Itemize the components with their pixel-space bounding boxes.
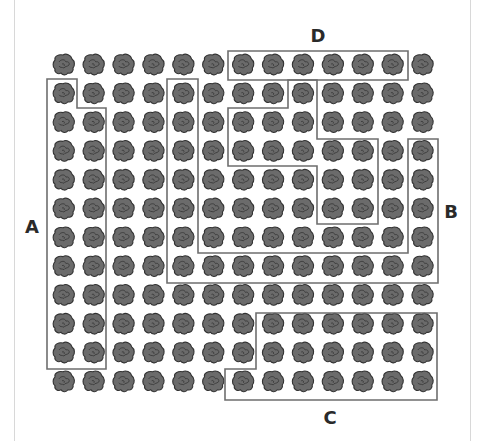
rock-blob-icon	[53, 198, 74, 219]
rock-blob-icon	[143, 342, 164, 363]
rock-blob-icon	[322, 112, 343, 133]
rock-blob-icon	[203, 169, 224, 190]
rock-blob-icon	[203, 112, 224, 133]
rock-blob-icon	[382, 227, 403, 248]
rock-blob-icon	[143, 256, 164, 277]
rock-blob-icon	[173, 371, 194, 392]
rock-blob-icon	[233, 371, 254, 392]
rock-blob-icon	[143, 83, 164, 104]
rock-blob-icon	[262, 285, 283, 306]
rock-blob-icon	[352, 227, 373, 248]
rock-blob-icon	[53, 141, 74, 162]
rock-blob-icon	[262, 227, 283, 248]
rock-blob-icon	[262, 256, 283, 277]
rock-blob-icon	[233, 342, 254, 363]
region-outline-d	[228, 51, 408, 80]
grid-diagram	[0, 0, 478, 441]
region-label-b: B	[444, 203, 458, 221]
rock-blob-icon	[292, 83, 313, 104]
rock-blob-icon	[412, 342, 433, 363]
rock-blob-icon	[262, 54, 283, 75]
rock-blob-icon	[412, 54, 433, 75]
rock-blob-icon	[83, 313, 104, 334]
rock-blob-icon	[382, 141, 403, 162]
rock-blob-icon	[173, 342, 194, 363]
rock-blob-icon	[143, 169, 164, 190]
rock-blob-icon	[322, 198, 343, 219]
rock-blob-icon	[412, 169, 433, 190]
rock-blob-icon	[53, 256, 74, 277]
rock-blob-icon	[113, 83, 134, 104]
rock-blob-icon	[352, 169, 373, 190]
rock-blob-icon	[233, 313, 254, 334]
rock-blob-icon	[83, 54, 104, 75]
rock-blob-icon	[143, 371, 164, 392]
rock-blob-icon	[203, 256, 224, 277]
rock-blob-icon	[292, 54, 313, 75]
rock-blob-icon	[83, 342, 104, 363]
rock-blob-icon	[352, 112, 373, 133]
rock-blob-icon	[352, 256, 373, 277]
rock-blob-icon	[83, 256, 104, 277]
rock-blob-icon	[83, 285, 104, 306]
rock-blob-icon	[173, 256, 194, 277]
rock-blob-icon	[233, 198, 254, 219]
rock-blob-icon	[412, 198, 433, 219]
rock-blob-icon	[53, 342, 74, 363]
rock-blob-icon	[322, 256, 343, 277]
rock-blob-icon	[233, 169, 254, 190]
rock-blob-icon	[382, 285, 403, 306]
rock-blob-icon	[83, 227, 104, 248]
rock-blob-icon	[203, 371, 224, 392]
rock-blob-icon	[322, 227, 343, 248]
rock-blob-icon	[322, 342, 343, 363]
rock-blob-icon	[53, 285, 74, 306]
rock-blob-icon	[143, 227, 164, 248]
rock-blob-icon	[352, 141, 373, 162]
rock-blob-icon	[382, 342, 403, 363]
region-label-d: D	[311, 27, 326, 45]
rock-blob-icon	[292, 256, 313, 277]
rock-blob-icon	[173, 83, 194, 104]
rock-blob-icon	[173, 313, 194, 334]
rock-blob-icon	[322, 54, 343, 75]
rock-blob-icon	[173, 227, 194, 248]
rock-blob-icon	[173, 141, 194, 162]
rock-blob-icon	[173, 112, 194, 133]
rock-blob-icon	[292, 313, 313, 334]
rock-blob-icon	[53, 227, 74, 248]
rock-blob-icon	[203, 198, 224, 219]
rock-blob-icon	[203, 227, 224, 248]
rock-blob-icon	[53, 169, 74, 190]
rock-blob-icon	[292, 285, 313, 306]
rock-blob-icon	[53, 112, 74, 133]
rock-blob-icon	[352, 198, 373, 219]
rock-blob-icon	[412, 285, 433, 306]
rock-blob-icon	[412, 256, 433, 277]
rock-blob-icon	[53, 371, 74, 392]
rock-blob-icon	[382, 256, 403, 277]
rock-blob-icon	[292, 169, 313, 190]
rock-blob-icon	[113, 112, 134, 133]
rock-blob-icon	[262, 141, 283, 162]
rock-blob-icon	[262, 83, 283, 104]
rock-blob-icon	[352, 83, 373, 104]
rock-blob-icon	[262, 342, 283, 363]
rock-blob-icon	[203, 342, 224, 363]
rock-blob-icon	[262, 112, 283, 133]
rock-blob-icon	[83, 83, 104, 104]
rock-blob-icon	[412, 371, 433, 392]
rock-blob-icon	[382, 198, 403, 219]
rock-blob-icon	[83, 141, 104, 162]
rock-blob-icon	[382, 83, 403, 104]
rock-blob-icon	[412, 112, 433, 133]
rock-blob-icon	[322, 83, 343, 104]
rock-blob-icon	[292, 227, 313, 248]
rock-blob-icon	[113, 169, 134, 190]
rock-blob-icon	[83, 371, 104, 392]
rock-blob-icon	[412, 313, 433, 334]
rock-blob-icon	[292, 342, 313, 363]
rock-blob-icon	[352, 54, 373, 75]
rock-blob-icon	[203, 141, 224, 162]
rock-blob-icon	[53, 313, 74, 334]
